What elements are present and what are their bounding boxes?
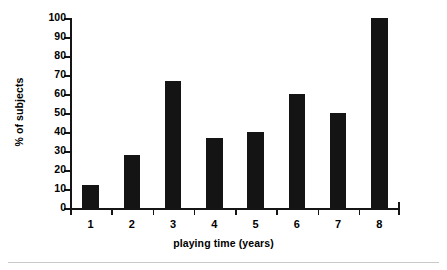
bar xyxy=(247,132,264,208)
x-tick-label: 4 xyxy=(211,218,217,230)
y-tick-label: 60 xyxy=(54,87,66,100)
bar xyxy=(289,94,306,208)
x-tick-label: 2 xyxy=(129,218,135,230)
x-tick-mark xyxy=(70,208,72,215)
bar xyxy=(371,18,388,208)
y-tick-label: 70 xyxy=(54,68,66,81)
bar xyxy=(206,138,223,208)
x-tick-mark xyxy=(398,208,400,215)
y-axis-title: % of subjects xyxy=(13,52,29,172)
x-tick-label: 8 xyxy=(376,218,382,230)
x-tick-mark xyxy=(153,208,155,215)
bar xyxy=(330,113,347,208)
x-tick-label: 5 xyxy=(253,218,259,230)
y-tick-label: 40 xyxy=(54,125,66,138)
bar xyxy=(82,185,99,208)
bar xyxy=(165,81,182,208)
y-tick-label: 100 xyxy=(48,11,66,24)
plot-area: 0102030405060708090100 12345678 xyxy=(70,18,400,208)
x-tick-label: 7 xyxy=(335,218,341,230)
x-tick-mark xyxy=(276,208,278,215)
x-tick-label: 3 xyxy=(170,218,176,230)
y-tick-label: 50 xyxy=(54,106,66,119)
x-tick-mark xyxy=(111,208,113,215)
y-axis-line xyxy=(70,18,72,208)
x-tick-mark xyxy=(318,208,320,215)
page-divider-rule xyxy=(8,262,439,263)
y-tick-label: 30 xyxy=(54,144,66,157)
bar xyxy=(124,155,141,208)
y-tick-label: 20 xyxy=(54,163,66,176)
x-tick-mark xyxy=(359,208,361,215)
x-tick-mark xyxy=(235,208,237,215)
x-tick-label: 1 xyxy=(88,218,94,230)
y-tick-label: 90 xyxy=(54,30,66,43)
y-tick-label: 0 xyxy=(60,201,66,214)
x-axis-title: playing time (years) xyxy=(0,237,447,249)
y-tick-label: 10 xyxy=(54,182,66,195)
x-tick-label: 6 xyxy=(294,218,300,230)
bar-chart-figure: % of subjects 0102030405060708090100 123… xyxy=(0,0,447,270)
y-tick-label: 80 xyxy=(54,49,66,62)
x-tick-mark xyxy=(194,208,196,215)
